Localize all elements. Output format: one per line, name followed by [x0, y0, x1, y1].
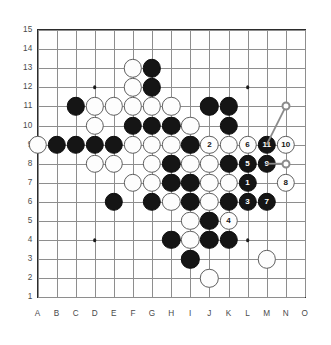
hoshi-point: [246, 86, 250, 90]
grid-line-vertical: [305, 30, 306, 297]
row-label-3: 3: [17, 254, 33, 264]
row-label-4: 4: [17, 235, 33, 245]
column-label-J: J: [201, 309, 217, 319]
row-label-8: 8: [17, 159, 33, 169]
grid-line-vertical: [76, 30, 77, 297]
row-label-2: 2: [17, 273, 33, 283]
row-label-13: 13: [17, 63, 33, 73]
row-label-15: 15: [17, 25, 33, 35]
column-label-K: K: [221, 309, 237, 319]
grid-line-vertical: [38, 30, 39, 297]
column-label-E: E: [106, 309, 122, 319]
column-label-A: A: [30, 309, 46, 319]
hoshi-point: [246, 238, 250, 242]
hoshi-point: [93, 86, 97, 90]
column-label-C: C: [68, 309, 84, 319]
grid-line-vertical: [57, 30, 58, 297]
row-label-5: 5: [17, 216, 33, 226]
circle-marker-N8[interactable]: [281, 159, 290, 168]
row-label-7: 7: [17, 178, 33, 188]
column-label-G: G: [144, 309, 160, 319]
row-label-1: 1: [17, 292, 33, 302]
row-label-10: 10: [17, 121, 33, 131]
row-label-12: 12: [17, 82, 33, 92]
column-label-N: N: [278, 309, 294, 319]
go-board[interactable]: 151413121110987654321ABCDEFGHIJKLMNO1234…: [0, 0, 331, 345]
column-label-D: D: [87, 309, 103, 319]
grid-line-horizontal: [38, 297, 305, 298]
column-label-H: H: [163, 309, 179, 319]
column-label-F: F: [125, 309, 141, 319]
column-label-B: B: [49, 309, 65, 319]
column-label-I: I: [182, 309, 198, 319]
row-label-14: 14: [17, 44, 33, 54]
hoshi-point: [93, 238, 97, 242]
go-diagram: 151413121110987654321ABCDEFGHIJKLMNO1234…: [0, 0, 331, 345]
circle-marker-N11[interactable]: [281, 102, 290, 111]
row-label-11: 11: [17, 101, 33, 111]
column-label-O: O: [297, 309, 313, 319]
column-label-M: M: [259, 309, 275, 319]
column-label-L: L: [240, 309, 256, 319]
row-label-6: 6: [17, 197, 33, 207]
